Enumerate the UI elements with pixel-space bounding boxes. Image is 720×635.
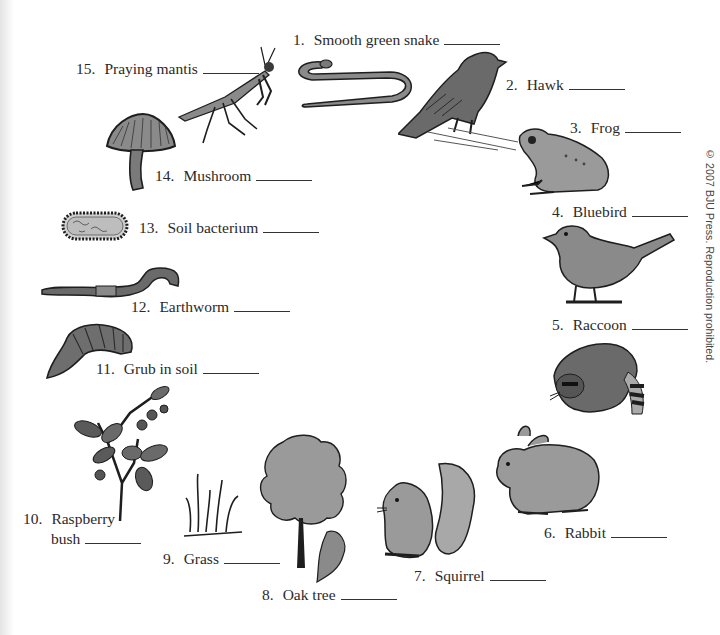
answer-blank[interactable] <box>263 220 319 233</box>
item-name: Smooth green snake <box>314 31 440 48</box>
praying-mantis-illustration <box>175 45 285 145</box>
earthworm-icon <box>38 262 184 302</box>
answer-blank[interactable] <box>234 299 290 312</box>
oak-tree-icon <box>255 432 365 584</box>
item-name: Raccoon <box>573 316 627 333</box>
item-13-soil-bacterium: 13.Soil bacterium <box>139 219 319 237</box>
item-number: 8. <box>262 586 274 604</box>
grub-icon <box>43 320 139 382</box>
raspberry-bush-illustration <box>68 383 178 523</box>
rabbit-illustration <box>488 424 602 520</box>
item-number: 13. <box>139 219 158 237</box>
answer-blank[interactable] <box>490 568 546 581</box>
item-name: Grass <box>184 550 219 567</box>
squirrel-illustration <box>373 458 485 566</box>
item-number: 7. <box>414 567 426 585</box>
squirrel-icon <box>373 458 485 566</box>
frog-illustration <box>518 126 612 198</box>
item-number: 5. <box>552 316 564 334</box>
grub-illustration <box>43 320 139 382</box>
item-number: 15. <box>76 60 95 78</box>
soil-bacterium-illustration <box>57 205 133 247</box>
snake-illustration <box>292 52 414 112</box>
answer-blank[interactable] <box>256 168 312 181</box>
answer-blank[interactable] <box>444 32 500 45</box>
earthworm-illustration <box>38 262 184 302</box>
item-name: Rabbit <box>565 524 606 541</box>
item-name: Soil bacterium <box>167 219 258 236</box>
grass-illustration <box>180 470 246 542</box>
bluebird-icon <box>542 222 676 314</box>
item-number: 4. <box>552 203 564 221</box>
item-number: 1. <box>293 31 305 49</box>
answer-blank[interactable] <box>85 531 141 544</box>
item-name: Hawk <box>527 76 564 93</box>
item-number: 9. <box>163 550 175 568</box>
item-name: Oak tree <box>283 586 336 603</box>
answer-blank[interactable] <box>341 587 397 600</box>
bacterium-icon <box>57 205 133 247</box>
raccoon-icon <box>548 336 648 418</box>
item-7-squirrel: 7.Squirrel <box>414 567 546 585</box>
answer-blank[interactable] <box>569 77 625 90</box>
item-5-raccoon: 5.Raccoon <box>552 316 688 334</box>
answer-blank[interactable] <box>611 525 667 538</box>
answer-blank[interactable] <box>625 120 681 133</box>
raspberry-icon <box>68 383 178 523</box>
answer-blank[interactable] <box>632 204 688 217</box>
frog-icon <box>518 126 612 198</box>
mantis-icon <box>175 45 285 145</box>
mushroom-illustration <box>103 112 179 192</box>
item-number: 6. <box>544 524 556 542</box>
hawk-icon <box>398 50 520 152</box>
mushroom-icon <box>103 112 179 192</box>
item-1-smooth-green-snake: 1.Smooth green snake <box>293 31 500 49</box>
hawk-illustration <box>398 50 520 152</box>
snake-icon <box>292 52 414 112</box>
rabbit-icon <box>488 424 602 520</box>
bluebird-illustration <box>542 222 676 314</box>
oak-tree-illustration <box>255 432 365 584</box>
answer-blank[interactable] <box>632 317 688 330</box>
item-name: Squirrel <box>435 567 485 584</box>
item-name: Bluebird <box>573 203 627 220</box>
answer-blank[interactable] <box>203 361 259 374</box>
item-name-line2: bush <box>51 530 80 547</box>
item-name: Mushroom <box>183 167 251 184</box>
grass-icon <box>180 470 246 542</box>
item-6-rabbit: 6.Rabbit <box>544 524 667 542</box>
raccoon-illustration <box>548 336 648 418</box>
page-edge-shadow <box>0 0 14 635</box>
item-number: 10. <box>23 510 42 528</box>
item-2-hawk: 2.Hawk <box>506 76 625 94</box>
item-8-oak-tree: 8.Oak tree <box>262 586 397 604</box>
item-4-bluebird: 4.Bluebird <box>552 203 688 221</box>
copyright-notice: © 2007 BJU Press. Reproduction prohibite… <box>704 148 716 363</box>
item-10-raspberry-bush-line2: bush <box>51 530 141 548</box>
